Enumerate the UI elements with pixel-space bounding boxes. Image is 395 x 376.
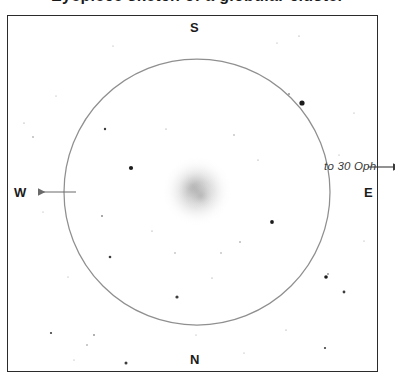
chart-frame <box>7 15 378 372</box>
cardinal-label-south: S <box>190 20 199 35</box>
cardinal-label-east: E <box>364 185 373 200</box>
cardinal-label-north: N <box>190 352 200 367</box>
annotation-to-30-oph: to 30 Oph <box>324 160 376 172</box>
finder-chart: Eyepiece sketch of a globular cluster <box>0 0 395 376</box>
chart-title-strip: Eyepiece sketch of a globular cluster <box>0 0 395 8</box>
page-title: Eyepiece sketch of a globular cluster <box>51 0 344 5</box>
cardinal-label-west: W <box>14 185 27 200</box>
